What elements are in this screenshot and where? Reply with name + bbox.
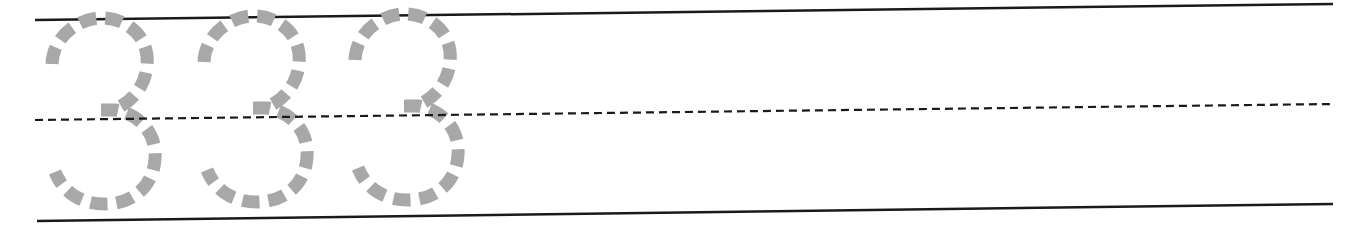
- midline-dashed: [35, 104, 1333, 120]
- top-guide-line: [35, 4, 1333, 20]
- trace-digit-3-third: [355, 14, 458, 200]
- bottom-guide-line: [37, 204, 1333, 221]
- tracing-worksheet: [0, 0, 1358, 232]
- trace-digit-3-second: [204, 16, 307, 202]
- trace-digit-3-first: [52, 18, 155, 204]
